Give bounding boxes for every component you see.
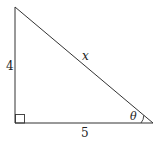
right-triangle-diagram: 4 5 x θ <box>0 0 166 149</box>
hypotenuse-label: x <box>82 49 89 63</box>
angle-label: θ <box>130 110 137 123</box>
right-angle-marker <box>16 115 25 124</box>
vertical-leg-label: 4 <box>6 59 14 73</box>
hypotenuse <box>15 7 153 123</box>
horizontal-leg-label: 5 <box>81 126 89 140</box>
angle-arc <box>141 115 144 123</box>
